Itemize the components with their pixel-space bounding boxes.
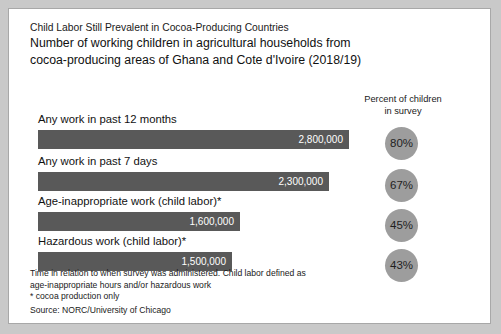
bar-label: Any work in past 12 months — [38, 113, 177, 125]
bar-track: 2,300,000 — [38, 172, 329, 191]
chart-panel: Child Labor Still Prevalent in Cocoa-Pro… — [8, 8, 491, 324]
bar-track: 2,800,000 — [38, 130, 349, 149]
source-line: Source: NORC/University of Chicago — [30, 305, 460, 317]
footnote-line: Time in relation to when survey was admi… — [30, 268, 460, 280]
bar-label: Hazardous work (child labor)* — [38, 235, 186, 247]
bar-fill: 2,300,000 — [38, 172, 329, 191]
bar-value-label: 2,800,000 — [299, 130, 344, 149]
percent-badge: 67% — [385, 169, 418, 202]
bar-value-label: 1,600,000 — [190, 212, 235, 231]
percent-badge: 80% — [385, 127, 418, 160]
bar-track: 1,600,000 — [38, 212, 240, 231]
footnote-line: age-inappropriate hours and/or hazardous… — [30, 280, 460, 292]
chart-footnotes: Time in relation to when survey was admi… — [30, 268, 460, 316]
bar-value-label: 2,300,000 — [279, 172, 324, 191]
bar-label: Any work in past 7 days — [38, 155, 157, 167]
footnote-line: * cocoa production only — [30, 291, 460, 303]
bar-label: Age-inappropriate work (child labor)* — [38, 195, 221, 207]
bar-fill: 2,800,000 — [38, 130, 349, 149]
percent-badge: 45% — [385, 209, 418, 242]
bar-fill: 1,600,000 — [38, 212, 240, 231]
